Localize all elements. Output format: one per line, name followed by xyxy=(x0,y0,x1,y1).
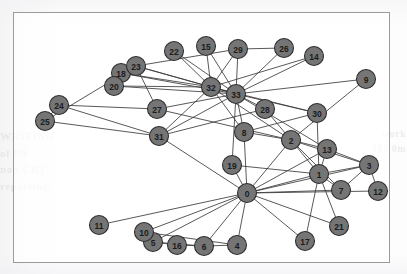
graph-edge xyxy=(247,140,291,193)
graph-node-circle[interactable] xyxy=(282,131,301,150)
graph-node-circle[interactable] xyxy=(238,184,257,203)
graph-node-circle[interactable] xyxy=(150,127,169,146)
graph-node-circle[interactable] xyxy=(227,85,246,104)
graph-edge xyxy=(305,174,319,241)
graph-node-circle[interactable] xyxy=(360,156,379,175)
graph-node[interactable]: 4 xyxy=(228,236,247,255)
graph-node[interactable]: 17 xyxy=(296,232,315,251)
graph-node-circle[interactable] xyxy=(223,156,242,175)
graph-node-circle[interactable] xyxy=(235,123,254,142)
graph-node-circle[interactable] xyxy=(229,40,248,59)
graph-node[interactable]: 31 xyxy=(150,127,169,146)
graph-node-circle[interactable] xyxy=(135,223,154,242)
graph-node[interactable]: 9 xyxy=(357,70,376,89)
graph-node-circle[interactable] xyxy=(165,42,184,61)
graph-node[interactable]: 14 xyxy=(305,47,324,66)
graph-node[interactable]: 7 xyxy=(332,181,351,200)
graph-node[interactable]: 13 xyxy=(318,140,337,159)
graph-edge xyxy=(247,193,339,226)
graph-node[interactable]: 20 xyxy=(105,77,124,96)
graph-edge xyxy=(247,193,305,241)
graph-node[interactable]: 32 xyxy=(202,78,221,97)
graph-node[interactable]: 1 xyxy=(310,165,329,184)
graph-node-circle[interactable] xyxy=(369,182,388,201)
graph-node[interactable]: 2 xyxy=(282,131,301,150)
graph-edge xyxy=(153,193,247,242)
graph-node-circle[interactable] xyxy=(256,100,275,119)
figure-frame: 0123456789101112131415161718192021222324… xyxy=(13,12,390,263)
graph-node-circle[interactable] xyxy=(228,236,247,255)
graph-node[interactable]: 24 xyxy=(50,96,69,115)
graph-node[interactable]: 26 xyxy=(275,39,294,58)
graph-edge xyxy=(59,105,157,109)
graph-node[interactable]: 19 xyxy=(223,156,242,175)
graph-node[interactable]: 12 xyxy=(369,182,388,201)
graph-node-circle[interactable] xyxy=(332,181,351,200)
graph-edge xyxy=(157,94,236,109)
graph-node-circle[interactable] xyxy=(105,77,124,96)
graph-node-circle[interactable] xyxy=(202,78,221,97)
graph-node-circle[interactable] xyxy=(127,57,146,76)
graph-node-circle[interactable] xyxy=(305,47,324,66)
graph-node-circle[interactable] xyxy=(90,216,109,235)
graph-node[interactable]: 16 xyxy=(168,236,187,255)
graph-node-circle[interactable] xyxy=(318,140,337,159)
graph-node-circle[interactable] xyxy=(168,236,187,255)
graph-node-circle[interactable] xyxy=(357,70,376,89)
network-graph: 0123456789101112131415161718192021222324… xyxy=(14,13,391,264)
graph-node[interactable]: 30 xyxy=(308,104,327,123)
graph-node[interactable]: 27 xyxy=(148,100,167,119)
graph-node[interactable]: 25 xyxy=(36,112,55,131)
graph-node-circle[interactable] xyxy=(36,112,55,131)
graph-edge xyxy=(236,94,317,113)
graph-node[interactable]: 29 xyxy=(229,40,248,59)
graph-node-circle[interactable] xyxy=(275,39,294,58)
graph-node-circle[interactable] xyxy=(330,217,349,236)
graph-node-circle[interactable] xyxy=(310,165,329,184)
graph-node[interactable]: 6 xyxy=(195,237,214,256)
graph-node-circle[interactable] xyxy=(308,104,327,123)
graph-node[interactable]: 3 xyxy=(360,156,379,175)
graph-node-circle[interactable] xyxy=(148,100,167,119)
graph-node[interactable]: 33 xyxy=(227,85,246,104)
graph-node-circle[interactable] xyxy=(195,237,214,256)
graph-edge xyxy=(232,165,319,174)
graph-edge xyxy=(45,121,159,136)
graph-node-circle[interactable] xyxy=(296,232,315,251)
graph-node[interactable]: 0 xyxy=(238,184,257,203)
graph-node[interactable]: 28 xyxy=(256,100,275,119)
graph-node[interactable]: 10 xyxy=(135,223,154,242)
node-layer: 0123456789101112131415161718192021222324… xyxy=(36,37,388,256)
graph-node[interactable]: 11 xyxy=(90,216,109,235)
figure-page: WRITING of EV non CBT reporting work 180… xyxy=(0,0,407,274)
graph-edge xyxy=(236,56,314,94)
graph-node[interactable]: 8 xyxy=(235,123,254,142)
graph-node[interactable]: 22 xyxy=(165,42,184,61)
graph-edge xyxy=(236,79,366,94)
graph-node-circle[interactable] xyxy=(197,37,216,56)
graph-node-circle[interactable] xyxy=(50,96,69,115)
graph-edge xyxy=(59,105,159,136)
graph-node[interactable]: 15 xyxy=(197,37,216,56)
graph-node[interactable]: 23 xyxy=(127,57,146,76)
graph-edge xyxy=(211,56,314,87)
graph-node[interactable]: 21 xyxy=(330,217,349,236)
